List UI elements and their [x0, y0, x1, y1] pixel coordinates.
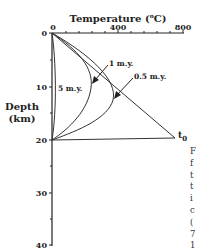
y-tick-label-30: 30: [36, 188, 48, 198]
caption-char: 7: [190, 229, 202, 241]
y-tick-label-10: 10: [36, 82, 48, 92]
label-5my: 5 m.y.: [58, 84, 83, 93]
caption-fragment: F f t t i c ( 7 1: [190, 146, 202, 250]
label-0.5my: 0.5 m.y.: [134, 72, 166, 81]
arrow-1my: [92, 65, 108, 84]
caption-char: t: [190, 170, 202, 182]
caption-char: f: [190, 158, 202, 170]
x-tick-label-0: 0: [50, 22, 56, 32]
caption-char: (: [190, 217, 202, 229]
caption-char: c: [190, 205, 202, 217]
y-tick-label-0: 0: [41, 28, 47, 38]
y-tick-label-40: 40: [36, 240, 48, 250]
y-axis-title-line2: (km): [9, 113, 36, 124]
y-axis-title-line1: Depth: [5, 101, 40, 112]
caption-char: F: [190, 146, 202, 158]
caption-char: 1: [190, 240, 202, 250]
label-t0: t0: [178, 130, 187, 143]
label-1my: 1 m.y.: [109, 59, 134, 68]
caption-char: i: [190, 193, 202, 205]
geotherm-chart: Temperature (oC) 0 400 800 0 10 20 30 40: [0, 0, 202, 250]
y-tick-label-20: 20: [36, 135, 48, 145]
caption-char: t: [190, 181, 202, 193]
